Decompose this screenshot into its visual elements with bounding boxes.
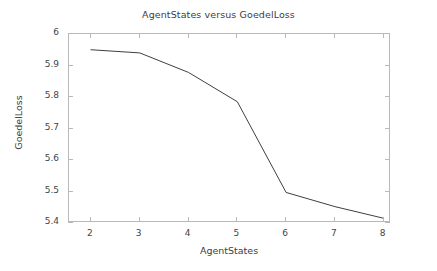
x-tick-mark bbox=[236, 217, 237, 222]
x-tick-label: 2 bbox=[75, 228, 105, 238]
x-tick-mark bbox=[188, 217, 189, 222]
x-tick-mark bbox=[334, 33, 335, 38]
y-tick-label: 5.8 bbox=[27, 90, 59, 100]
data-line-series bbox=[69, 34, 391, 223]
x-tick-mark bbox=[188, 33, 189, 38]
x-tick-mark bbox=[139, 33, 140, 38]
y-tick-mark bbox=[68, 191, 73, 192]
x-tick-label: 7 bbox=[319, 228, 349, 238]
y-tick-label: 5.9 bbox=[27, 59, 59, 69]
y-tick-mark bbox=[385, 33, 390, 34]
y-axis-title: GoedelLoss bbox=[13, 73, 24, 173]
x-tick-mark bbox=[334, 217, 335, 222]
y-tick-mark bbox=[385, 159, 390, 160]
x-tick-mark bbox=[383, 217, 384, 222]
x-tick-mark bbox=[285, 217, 286, 222]
x-tick-mark bbox=[383, 33, 384, 38]
x-tick-mark bbox=[90, 217, 91, 222]
y-tick-mark bbox=[385, 128, 390, 129]
y-tick-mark bbox=[68, 159, 73, 160]
y-tick-mark bbox=[68, 33, 73, 34]
plot-area bbox=[68, 33, 390, 222]
x-tick-label: 6 bbox=[270, 228, 300, 238]
y-tick-mark bbox=[385, 96, 390, 97]
x-tick-label: 8 bbox=[368, 228, 398, 238]
y-tick-mark bbox=[68, 128, 73, 129]
x-axis-title: AgentStates bbox=[68, 245, 390, 256]
y-tick-label: 5.4 bbox=[27, 216, 59, 226]
y-tick-mark bbox=[385, 65, 390, 66]
y-tick-mark bbox=[385, 191, 390, 192]
x-tick-label: 3 bbox=[124, 228, 154, 238]
x-tick-mark bbox=[139, 217, 140, 222]
y-tick-label: 5.6 bbox=[27, 153, 59, 163]
goedelloss-line bbox=[91, 50, 384, 219]
x-tick-mark bbox=[236, 33, 237, 38]
y-tick-mark bbox=[385, 222, 390, 223]
x-tick-label: 5 bbox=[221, 228, 251, 238]
chart-title: AgentStates versus GoedelLoss bbox=[0, 9, 437, 20]
y-tick-label: 5.5 bbox=[27, 185, 59, 195]
y-tick-mark bbox=[68, 222, 73, 223]
y-tick-label: 6 bbox=[27, 27, 59, 37]
y-tick-mark bbox=[68, 65, 73, 66]
y-tick-mark bbox=[68, 96, 73, 97]
chart-figure: AgentStates versus GoedelLoss 5.45.55.65… bbox=[0, 0, 437, 271]
x-tick-label: 4 bbox=[173, 228, 203, 238]
y-tick-label: 5.7 bbox=[27, 122, 59, 132]
x-tick-mark bbox=[90, 33, 91, 38]
x-tick-mark bbox=[285, 33, 286, 38]
